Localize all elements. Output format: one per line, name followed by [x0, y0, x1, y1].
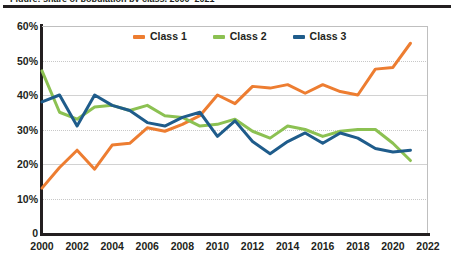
chart-figure: Figure: share of population by class, 20…	[0, 0, 454, 268]
series-line-class-2	[42, 71, 410, 161]
series-line-class-1	[42, 43, 410, 188]
series-lines	[0, 0, 454, 268]
series-line-class-3	[42, 95, 410, 154]
